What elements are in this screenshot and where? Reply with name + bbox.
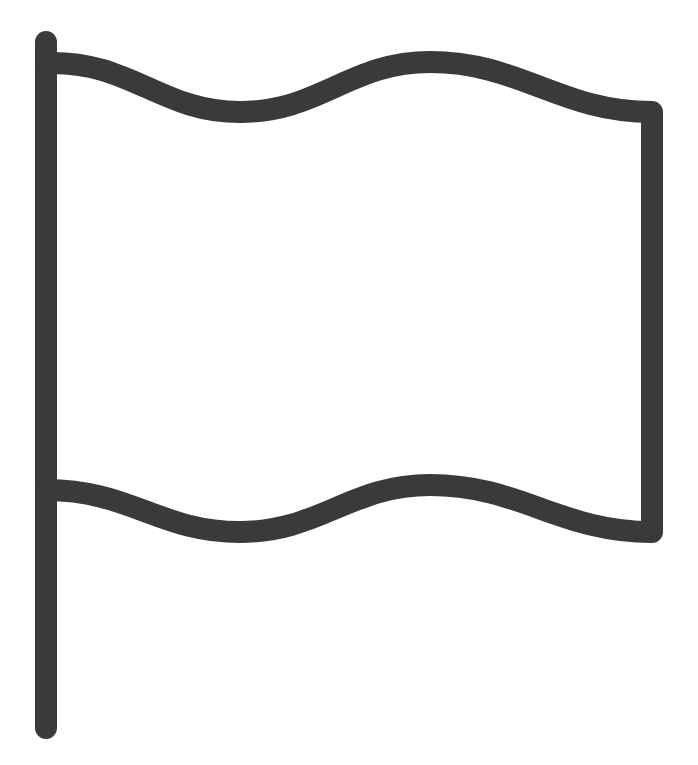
flag-cloth	[46, 62, 652, 532]
flag-icon-canvas	[0, 0, 698, 765]
flag-icon	[0, 0, 698, 765]
